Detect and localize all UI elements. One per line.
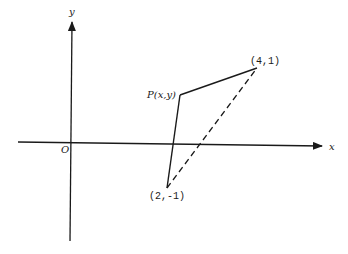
point-b-label: (2,-1) (149, 191, 185, 202)
origin-label: O (61, 144, 69, 155)
segment-p-to-b (167, 95, 180, 188)
coordinate-diagram: y x O P(x,y) (4,1) (2,-1) (0, 0, 348, 254)
point-p-label: P(x,y) (146, 89, 176, 100)
segment-b-to-a-dashed (167, 68, 257, 188)
x-axis-label: x (329, 141, 335, 152)
y-axis (70, 22, 72, 241)
y-axis-label: y (68, 6, 75, 17)
point-a-label: (4,1) (250, 56, 280, 67)
segment-p-to-a (180, 68, 257, 95)
